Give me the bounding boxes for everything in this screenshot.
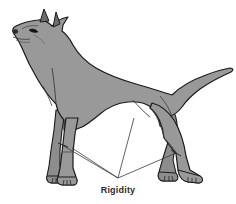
dog-rigidity-illustration: Rigidity xyxy=(0,0,236,204)
nose xyxy=(13,29,18,33)
figure-container: Rigidity xyxy=(0,0,236,204)
paw-hind-far xyxy=(158,172,178,181)
rigidity-label: Rigidity xyxy=(101,185,136,195)
